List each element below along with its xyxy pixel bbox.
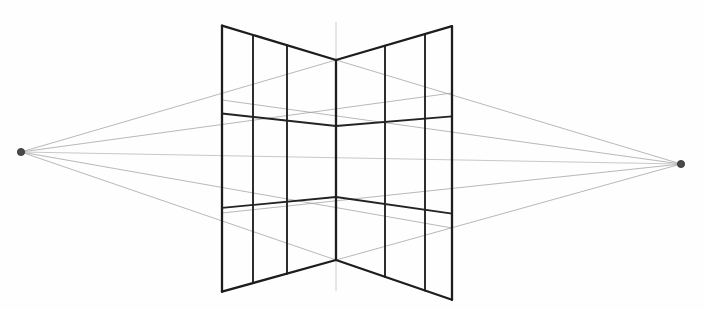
perspective-diagram — [0, 0, 704, 310]
cube-left-face — [222, 35, 336, 283]
cube-bottom-left-edge — [222, 260, 336, 292]
cube-right-face — [336, 34, 452, 291]
right-face-horizontal-1 — [336, 197, 452, 214]
lvp-to-right-bottom — [21, 152, 452, 228]
rvp-to-front-bottom — [336, 164, 681, 260]
cube-top-right-edge — [336, 26, 452, 60]
cube-bottom-right-edge — [336, 260, 452, 300]
right-face-horizontal-0 — [336, 116, 452, 126]
guide-lines-group — [21, 60, 681, 260]
right-vanishing-point — [677, 160, 684, 167]
rvp-to-front-top — [336, 60, 681, 164]
cube-outer-edges — [222, 26, 452, 300]
lvp-to-front-top — [21, 60, 336, 152]
left-face-horizontal-0 — [222, 113, 336, 126]
perspective-drawing-canvas — [0, 0, 704, 310]
cube-top-left-edge — [222, 26, 336, 60]
horizon-line — [21, 152, 681, 164]
left-vanishing-point — [17, 148, 24, 155]
